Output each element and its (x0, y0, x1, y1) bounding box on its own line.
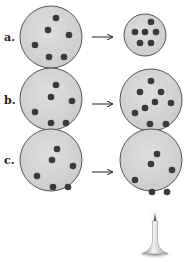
gas-particle (137, 89, 144, 96)
gas-particle (32, 42, 39, 49)
container-a-left (20, 6, 82, 68)
gas-particle (132, 177, 139, 184)
bunsen-burner-icon (135, 205, 175, 259)
gas-particle (132, 29, 139, 36)
gas-particle (169, 167, 176, 174)
gas-particle (142, 105, 149, 112)
gas-particle (149, 189, 156, 196)
container-c-left (20, 129, 82, 191)
gas-particle (45, 27, 52, 34)
container-b-left (20, 68, 82, 130)
gas-particle (142, 29, 149, 36)
gas-particle (148, 19, 155, 26)
gas-particle (53, 15, 60, 22)
gas-particle (147, 121, 154, 128)
gas-particle (70, 163, 77, 170)
gas-particle (152, 99, 159, 106)
gas-particle (168, 100, 175, 107)
gas-particle (148, 161, 155, 168)
container-c-right (120, 129, 182, 195)
gas-particle (63, 120, 70, 127)
gas-particle (163, 121, 170, 128)
gas-particle (48, 94, 55, 101)
gas-particle (154, 151, 161, 158)
gas-particle (69, 98, 76, 105)
gas-particle (132, 110, 139, 117)
gas-particle (65, 184, 72, 191)
gas-particle (48, 120, 55, 127)
container-a-right (124, 14, 166, 56)
gas-particle (32, 109, 39, 116)
gas-particle (61, 54, 68, 61)
gas-particle (148, 40, 155, 47)
gas-particle (53, 82, 60, 89)
gas-particle (158, 89, 165, 96)
particle-diagram (0, 0, 190, 262)
gas-particle (46, 54, 53, 61)
gas-particle (66, 32, 73, 39)
gas-particle (49, 157, 56, 164)
gas-particle (137, 40, 144, 47)
gas-particle (148, 78, 155, 85)
gas-particle (34, 173, 41, 180)
gas-particle (54, 146, 61, 153)
gas-particle (153, 29, 160, 36)
gas-particle (50, 184, 57, 191)
container-b-right (120, 69, 182, 131)
gas-particle (164, 189, 171, 196)
